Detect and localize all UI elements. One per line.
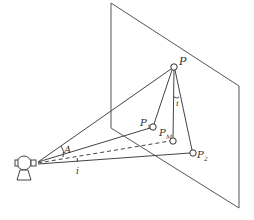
angle-label-i-top: i xyxy=(176,99,179,108)
observer-icon xyxy=(15,156,36,180)
projection-plane xyxy=(111,3,239,208)
line-P-PM xyxy=(173,70,174,138)
label-P1-sub: 1 xyxy=(147,123,151,130)
line-P-P2 xyxy=(175,70,192,150)
label-PM: P xyxy=(158,127,166,138)
angle-label-i-observer: i xyxy=(76,166,79,176)
angle-i-arc-top xyxy=(174,97,179,98)
label-PM-sub: M xyxy=(165,133,173,140)
label-P2: P xyxy=(196,149,204,160)
angle-label-A: A xyxy=(63,144,71,155)
point-P xyxy=(171,64,177,70)
angle-i-arc-observer xyxy=(77,158,78,162)
ray-to-P xyxy=(38,69,171,162)
line-P-P1 xyxy=(154,70,172,124)
label-P1: P xyxy=(139,117,147,128)
point-P2 xyxy=(190,150,196,156)
label-P2-sub: 2 xyxy=(203,155,208,162)
perspective-diagram: P P 1 P M P 2 A i i xyxy=(0,0,254,220)
label-P: P xyxy=(178,55,187,68)
